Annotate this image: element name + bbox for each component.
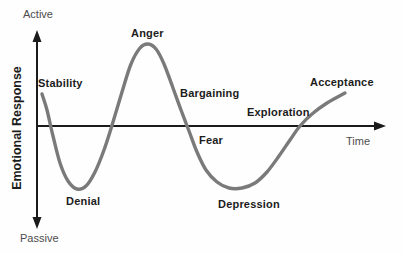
y-axis-top-label: Active: [23, 8, 53, 20]
x-axis-label: Time: [346, 135, 370, 147]
stage-label-exploration: Exploration: [247, 106, 310, 118]
stage-label-anger: Anger: [131, 27, 164, 39]
y-axis-title: Emotional Response: [10, 58, 24, 198]
y-axis-down-arrowhead: [33, 217, 42, 229]
stage-label-acceptance: Acceptance: [310, 76, 374, 88]
stage-label-denial: Denial: [66, 195, 100, 207]
y-axis-up-arrowhead: [33, 30, 42, 42]
stage-label-stability: Stability: [38, 77, 83, 89]
stage-label-bargaining: Bargaining: [180, 87, 239, 99]
stage-label-depression: Depression: [218, 198, 280, 210]
curve-svg: [0, 0, 403, 254]
x-axis-right-arrowhead: [374, 122, 386, 131]
stage-label-fear: Fear: [199, 134, 223, 146]
change-curve-figure: Emotional Response Active Passive Time S…: [0, 0, 403, 254]
y-axis-bottom-label: Passive: [20, 232, 59, 244]
